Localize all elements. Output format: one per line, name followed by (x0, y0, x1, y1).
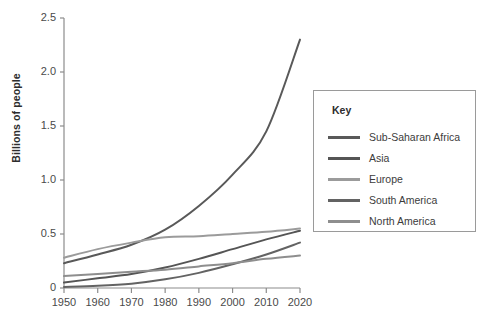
legend-item-label: Asia (369, 152, 389, 164)
legend: Key Sub-Saharan AfricaAsiaEuropeSouth Am… (313, 90, 476, 232)
y-axis-tick-label: 2.5 (22, 11, 56, 23)
legend-item: Europe (328, 170, 403, 188)
series-line (64, 256, 300, 277)
legend-item: Sub-Saharan Africa (328, 128, 460, 146)
legend-title: Key (332, 104, 351, 116)
legend-line-swatch-icon (328, 136, 360, 139)
series-line (64, 40, 300, 264)
line-chart: Billions of people 00.51.01.52.02.5 1950… (0, 0, 485, 314)
y-axis-tick-label: 2.0 (22, 65, 56, 77)
y-axis-tick-label: 1.0 (22, 173, 56, 185)
legend-item: Asia (328, 149, 389, 167)
legend-line-swatch-icon (328, 220, 360, 223)
legend-item-label: Europe (369, 173, 403, 185)
y-axis-title: Billions of people (10, 58, 22, 178)
y-axis-tick-label: 0 (22, 281, 56, 293)
y-axis-tick-label: 0.5 (22, 227, 56, 239)
legend-line-swatch-icon (328, 199, 360, 202)
y-axis-tick-label: 1.5 (22, 119, 56, 131)
legend-line-swatch-icon (328, 178, 360, 181)
legend-item: North America (328, 212, 436, 230)
legend-item: South America (328, 191, 437, 209)
legend-line-swatch-icon (328, 157, 360, 160)
x-axis-tick-label: 2020 (280, 296, 320, 308)
legend-item-label: South America (369, 194, 437, 206)
legend-item-label: Sub-Saharan Africa (369, 131, 460, 143)
legend-item-label: North America (369, 215, 436, 227)
